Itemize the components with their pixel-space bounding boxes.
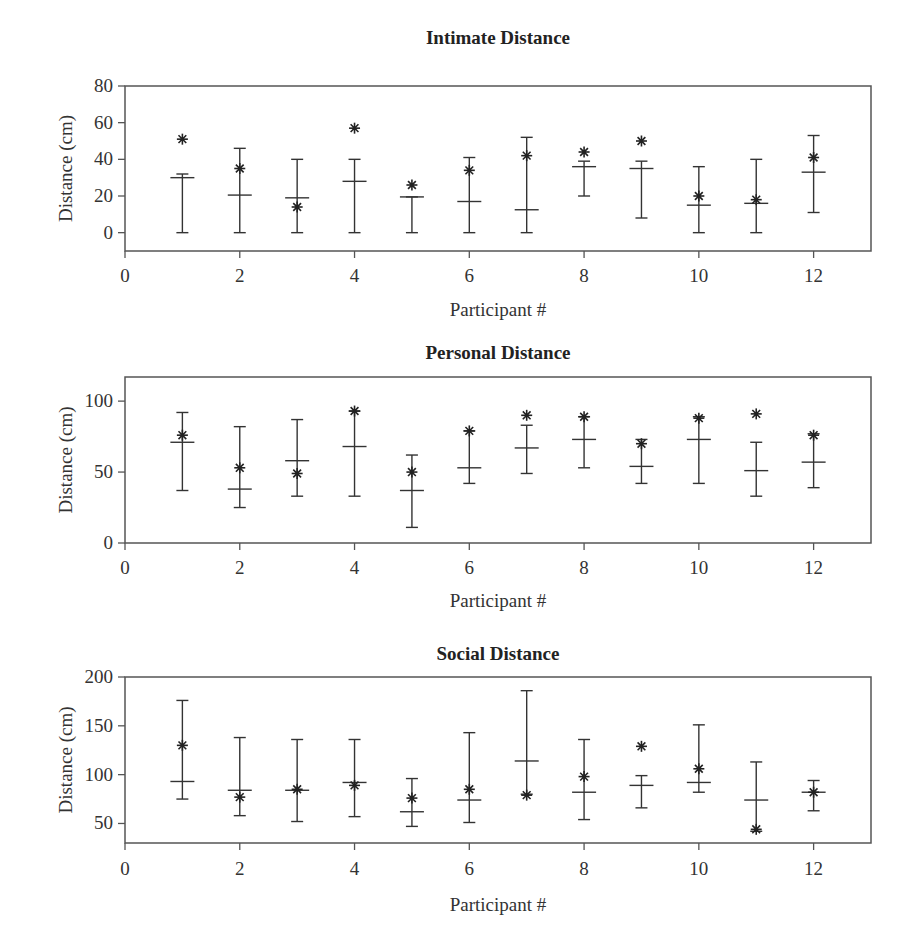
asterisk-marker [636,741,647,752]
x-axis: 024681012 [120,843,823,879]
asterisk-marker [521,410,532,421]
figure: Intimate Distance024681012020406080Parti… [0,0,918,945]
y-tick-label: 100 [85,764,114,785]
data-point-participant-1 [170,412,194,490]
asterisk-marker [636,136,647,147]
y-axis-label: Distance (cm) [55,406,77,513]
data-point-participant-2 [228,148,252,232]
x-tick-label: 10 [689,557,708,578]
x-axis: 024681012 [120,251,823,286]
x-tick-label: 4 [350,557,360,578]
data-point-participant-10 [687,725,711,792]
y-axis: 50100150200 [85,666,126,833]
y-tick-label: 50 [94,812,113,833]
chart-title: Personal Distance [425,342,570,363]
data-point-participant-3 [285,739,309,821]
asterisk-marker [292,468,303,479]
asterisk-marker [693,191,704,202]
x-axis-label: Participant # [450,590,547,611]
data-point-participant-11 [744,159,768,232]
asterisk-marker [808,152,819,163]
x-tick-label: 2 [235,557,245,578]
data-point-participant-1 [170,700,194,799]
x-tick-label: 12 [804,265,823,286]
y-tick-label: 0 [104,532,114,553]
chart-title: Social Distance [437,643,560,664]
x-tick-label: 8 [579,858,589,879]
plot-frame [125,677,871,843]
y-tick-label: 100 [85,390,114,411]
data-point-participant-5 [400,779,424,827]
x-tick-label: 6 [465,557,475,578]
data-point-participant-9 [629,136,653,219]
data-point-participant-7 [515,410,539,474]
asterisk-marker [579,147,590,158]
asterisk-marker [234,792,245,803]
data-point-participant-2 [228,738,252,816]
y-tick-label: 150 [85,715,114,736]
data-point-participant-12 [802,136,826,213]
asterisk-marker [579,771,590,782]
data-point-participant-8 [572,147,596,197]
asterisk-marker [751,194,762,205]
x-axis: 024681012 [120,543,823,578]
x-tick-label: 8 [579,265,589,286]
chart-panel-3: Social Distance02468101250100150200Parti… [55,643,871,915]
data-point-participant-6 [457,733,481,823]
asterisk-marker [292,202,303,213]
x-axis-label: Participant # [450,894,547,915]
x-tick-label: 8 [579,557,589,578]
x-tick-label: 6 [465,858,475,879]
data-point-participant-2 [228,427,252,508]
data-point-participant-1 [170,134,194,233]
data-point-participant-6 [457,425,481,483]
asterisk-marker [521,790,532,801]
data-point-participant-4 [343,123,367,233]
data-point-participant-3 [285,420,309,497]
x-axis-label: Participant # [450,299,547,320]
y-tick-label: 50 [94,461,113,482]
x-tick-label: 12 [804,557,823,578]
chart-panel-2: Personal Distance024681012050100Particip… [55,342,871,611]
asterisk-marker [406,467,417,478]
asterisk-marker [808,430,819,441]
asterisk-marker [406,180,417,191]
data-point-participant-11 [744,762,768,835]
y-axis: 020406080 [94,75,125,243]
asterisk-marker [234,163,245,174]
data-point-participant-8 [572,411,596,468]
x-tick-label: 10 [689,265,708,286]
x-tick-label: 0 [120,858,130,879]
x-tick-label: 10 [689,858,708,879]
asterisk-marker [693,763,704,774]
data-point-participant-12 [802,781,826,811]
data-point-participant-7 [515,137,539,232]
data-point-participant-7 [515,691,539,801]
data-point-participant-10 [687,167,711,233]
plot-frame [125,377,871,543]
data-point-participant-5 [400,455,424,527]
y-tick-label: 80 [94,75,113,96]
y-tick-label: 200 [85,666,114,687]
x-tick-label: 4 [350,858,360,879]
asterisk-marker [464,784,475,795]
asterisk-marker [406,793,417,804]
y-tick-label: 0 [104,222,114,243]
data-point-participant-6 [457,158,481,233]
asterisk-marker [349,780,360,791]
asterisk-marker [464,425,475,436]
asterisk-marker [808,787,819,798]
chart-panel-1: Intimate Distance024681012020406080Parti… [55,27,871,320]
asterisk-marker [579,411,590,422]
data-point-participant-4 [343,406,367,497]
data-point-participant-9 [629,741,653,808]
x-tick-label: 4 [350,265,360,286]
asterisk-marker [177,740,188,751]
y-tick-label: 20 [94,185,113,206]
y-tick-label: 40 [94,148,113,169]
x-tick-label: 2 [235,858,245,879]
x-tick-label: 6 [465,265,475,286]
asterisk-marker [464,165,475,176]
y-axis-label: Distance (cm) [55,706,77,813]
y-axis-label: Distance (cm) [55,115,77,222]
